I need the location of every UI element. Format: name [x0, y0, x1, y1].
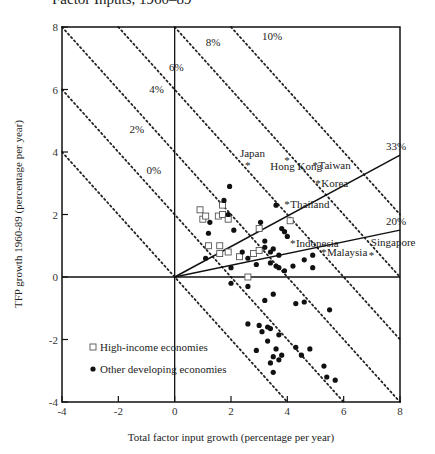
iso-line-8pct	[175, 27, 400, 277]
economy-label-japan: Japan	[240, 147, 266, 159]
developing-point	[302, 257, 307, 262]
y-tick-label: 8	[53, 21, 59, 33]
developing-point	[262, 238, 267, 243]
developing-point	[226, 212, 231, 217]
developing-point	[273, 203, 278, 208]
developing-point	[245, 256, 250, 261]
legend-dot-icon	[90, 366, 95, 371]
developing-point	[307, 346, 312, 351]
asterisk-marker: *	[290, 237, 296, 249]
iso-line-label: 0%	[147, 164, 162, 176]
high-income-point	[217, 243, 223, 249]
high-income-point	[220, 202, 226, 208]
developing-point	[254, 348, 259, 353]
high-income-point	[251, 251, 257, 257]
developing-point	[310, 265, 315, 270]
asterisk-marker: *	[284, 198, 290, 210]
x-tick-label: 0	[172, 405, 178, 417]
legend-label: High-income economies	[100, 341, 208, 353]
developing-point	[262, 245, 267, 250]
developing-point	[293, 301, 298, 306]
developing-point	[327, 307, 332, 312]
legend: High-income economiesOther developing ec…	[90, 341, 226, 375]
developing-point	[206, 231, 211, 236]
y-tick-label: 4	[53, 146, 59, 158]
x-tick-label: 6	[341, 405, 347, 417]
ray-label: 33%	[386, 140, 406, 152]
developing-point	[259, 329, 264, 334]
developing-point	[276, 253, 281, 258]
asterisk-marker: *	[321, 246, 327, 258]
developing-point	[271, 370, 276, 375]
developing-point	[203, 256, 208, 261]
x-tick-label: 4	[285, 405, 291, 417]
developing-point	[276, 265, 281, 270]
developing-point	[299, 353, 304, 358]
ray-label: 20%	[386, 215, 406, 227]
high-income-point	[256, 226, 262, 232]
developing-point	[271, 354, 276, 359]
high-income-point	[217, 251, 223, 257]
high-income-point	[220, 212, 226, 218]
developing-point	[268, 260, 273, 265]
x-tick-label: -4	[57, 405, 67, 417]
asterisk-marker: *	[315, 177, 321, 189]
developing-point	[257, 323, 262, 328]
high-income-point	[236, 254, 242, 260]
economy-label-korea: Korea	[321, 177, 348, 189]
developing-point	[276, 332, 281, 337]
iso-line-label: 10%	[262, 30, 282, 42]
high-income-point	[203, 213, 209, 219]
high-income-point	[205, 243, 211, 249]
iso-line-label: 8%	[206, 36, 221, 48]
developing-point	[265, 338, 270, 343]
y-axis-title: TFP growth 1960-89 (percentage per year)	[12, 120, 25, 308]
iso-line-label: 4%	[149, 83, 164, 95]
developing-point	[240, 249, 245, 254]
high-income-point	[287, 218, 293, 224]
developing-point	[302, 299, 307, 304]
developing-point	[279, 353, 284, 358]
economy-label-thailand: Thailand	[290, 198, 330, 210]
developing-point	[207, 220, 212, 225]
x-tick-label: 8	[397, 405, 403, 417]
developing-point	[245, 321, 250, 326]
x-tick-label: 2	[228, 405, 234, 417]
y-tick-label: -4	[49, 396, 59, 408]
developing-point	[271, 246, 276, 251]
developing-point	[310, 253, 315, 258]
asterisk-marker: *	[245, 159, 251, 171]
developing-point	[282, 268, 287, 273]
scatter-chart: 0%2%4%6%8%10% 33%20% -4-202468-4-202468 …	[0, 0, 435, 454]
economy-label-taiwan: Taiwan	[319, 159, 352, 171]
developing-point	[221, 198, 226, 203]
legend-label: Other developing economies	[100, 363, 226, 375]
high-income-point	[245, 274, 251, 280]
developing-point	[228, 265, 233, 270]
developing-point	[268, 360, 273, 365]
x-tick-label: -2	[114, 405, 123, 417]
y-tick-label: 6	[53, 84, 59, 96]
asterisk-marker: *	[369, 249, 375, 261]
developing-point	[333, 378, 338, 383]
legend-square-icon	[90, 344, 96, 350]
y-tick-label: -2	[49, 334, 58, 346]
developing-point	[231, 228, 236, 233]
developing-point	[245, 284, 250, 289]
developing-point	[282, 229, 287, 234]
y-tick-label: 0	[53, 271, 59, 283]
high-income-point	[197, 207, 203, 213]
developing-point	[276, 357, 281, 362]
developing-point	[258, 220, 263, 225]
x-axis-title: Total factor input growth (percentage pe…	[128, 431, 335, 444]
asterisk-marker: *	[313, 159, 319, 171]
developing-point	[273, 346, 278, 351]
developing-point	[293, 345, 298, 350]
economy-label-singapore: Singapore	[371, 236, 416, 248]
developing-point	[271, 292, 276, 297]
iso-line-label: 2%	[130, 123, 145, 135]
developing-point	[227, 184, 232, 189]
data-points	[197, 184, 338, 383]
iso-line-6pct	[118, 27, 400, 340]
high-income-point	[256, 247, 262, 253]
